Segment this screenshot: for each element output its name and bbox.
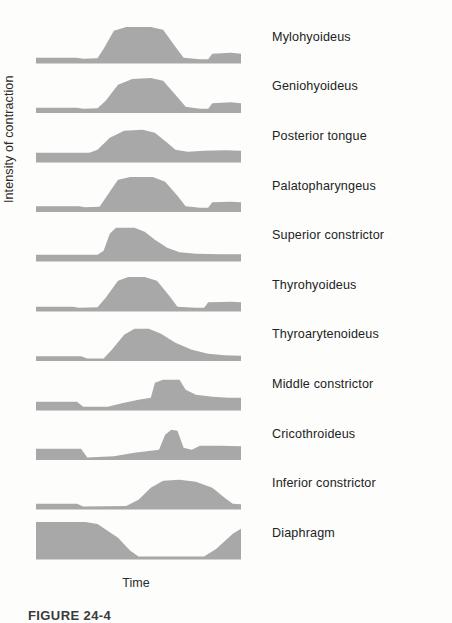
x-axis-label: Time (0, 576, 272, 590)
figure-root: Intensity of contraction MylohyoideusGen… (0, 0, 452, 623)
muscle-label-inferior-constrictor: Inferior constrictor (272, 476, 376, 490)
muscle-labels-column: MylohyoideusGeniohyoideusPosterior tongu… (272, 14, 452, 560)
emg-trace-thyrohyoideus (36, 262, 241, 312)
emg-trace-posterior-tongue (36, 113, 241, 163)
muscle-label-thyroarytenoideus: Thyroarytenoideus (272, 327, 379, 341)
muscle-label-thyrohyoideus: Thyrohyoideus (272, 278, 357, 292)
trace-envelope (36, 380, 241, 411)
trace-envelope (36, 77, 241, 113)
emg-trace-diaphragm (36, 510, 241, 560)
trace-envelope (36, 177, 241, 213)
emg-trace-superior-constrictor (36, 212, 241, 262)
y-axis-label: Intensity of contraction (2, 0, 16, 203)
emg-trace-inferior-constrictor (36, 460, 241, 510)
trace-envelope (36, 430, 241, 461)
emg-trace-thyroarytenoideus (36, 312, 241, 362)
muscle-label-diaphragm: Diaphragm (272, 526, 335, 540)
emg-trace-cricothroideus (36, 411, 241, 461)
muscle-label-cricothroideus: Cricothroideus (272, 427, 355, 441)
muscle-label-geniohyoideus: Geniohyoideus (272, 79, 358, 93)
muscle-label-middle-constrictor: Middle constrictor (272, 377, 373, 391)
muscle-label-palatopharyngeus: Palatopharyngeus (272, 179, 376, 193)
trace-envelope (36, 522, 241, 560)
muscle-label-superior-constrictor: Superior constrictor (272, 228, 384, 242)
muscle-label-mylohyoideus: Mylohyoideus (272, 30, 351, 44)
trace-envelope (36, 277, 241, 312)
emg-traces-area (36, 14, 241, 560)
emg-trace-palatopharyngeus (36, 163, 241, 213)
trace-envelope (36, 480, 241, 510)
muscle-label-posterior-tongue: Posterior tongue (272, 129, 367, 143)
figure-caption: FIGURE 24-4 (28, 608, 111, 623)
emg-trace-geniohyoideus (36, 64, 241, 114)
trace-envelope (36, 228, 241, 262)
trace-envelope (36, 27, 241, 64)
trace-envelope (36, 328, 241, 361)
emg-trace-middle-constrictor (36, 361, 241, 411)
trace-envelope (36, 130, 241, 163)
emg-trace-mylohyoideus (36, 14, 241, 64)
